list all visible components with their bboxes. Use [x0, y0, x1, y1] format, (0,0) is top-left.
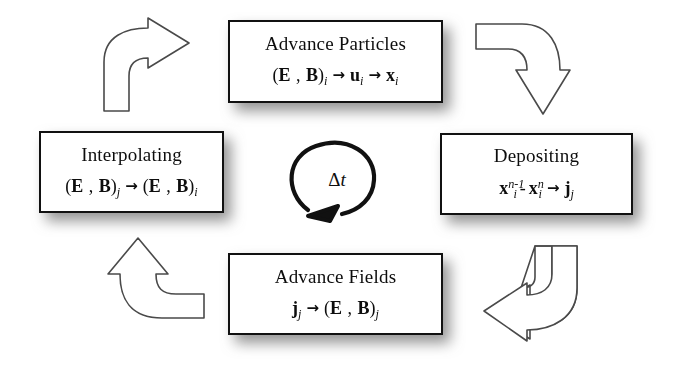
- node-formula-advance-particles: (E , B)i→ui→xi: [273, 66, 399, 88]
- connector-arrow-interpolating-to-advance-particles: [96, 16, 206, 116]
- formula-B-1: B: [99, 176, 111, 196]
- formula-arrow: →: [120, 177, 143, 195]
- formula-subscript-i-3: i: [395, 74, 398, 88]
- formula-comma-2: ,: [161, 176, 177, 196]
- connector-arrow-advance-fields-to-interpolating: [92, 236, 212, 346]
- formula-arrow: →: [301, 299, 324, 317]
- formula-arrow: →: [542, 179, 565, 197]
- node-interpolating[interactable]: Interpolating (E , B)j→(E , B)i: [39, 131, 224, 213]
- connector-arrow-depositing-to-advance-fields: [472, 240, 587, 350]
- node-title-interpolating: Interpolating: [81, 145, 182, 166]
- node-formula-interpolating: (E , B)j→(E , B)i: [65, 177, 197, 199]
- formula-x: x: [386, 65, 395, 85]
- formula-subscript-j-2: j: [376, 307, 379, 321]
- formula-arrow-1: →: [327, 66, 350, 84]
- formula-comma: ,: [342, 298, 358, 318]
- t-symbol: t: [340, 169, 345, 190]
- formula-E: E: [330, 298, 342, 318]
- formula-x-1: x: [499, 178, 508, 198]
- node-title-advance-fields: Advance Fields: [275, 267, 397, 288]
- timestep-cycle: Δt: [268, 126, 406, 234]
- node-title-advance-particles: Advance Particles: [265, 34, 406, 55]
- diagram-canvas: Advance Particles (E , B)i→ui→xi Deposit…: [0, 0, 680, 366]
- node-advance-fields[interactable]: Advance Fields jj→(E , B)j: [228, 253, 443, 335]
- formula-x-2: x: [529, 178, 538, 198]
- formula-E-1: E: [71, 176, 83, 196]
- formula-subscript-i: i: [194, 185, 197, 199]
- node-formula-advance-fields: jj→(E , B)j: [292, 299, 379, 321]
- formula-E: E: [279, 65, 291, 85]
- connector-arrow-advance-particles-to-depositing: [470, 16, 580, 121]
- formula-E-2: E: [149, 176, 161, 196]
- formula-minus: -: [517, 178, 529, 198]
- delta-symbol: Δ: [328, 169, 340, 190]
- formula-subscript-j: j: [570, 187, 573, 201]
- formula-comma-1: ,: [83, 176, 99, 196]
- node-title-depositing: Depositing: [494, 146, 579, 167]
- formula-u: u: [350, 65, 360, 85]
- formula-comma: ,: [291, 65, 307, 85]
- formula-B: B: [306, 65, 318, 85]
- node-advance-particles[interactable]: Advance Particles (E , B)i→ui→xi: [228, 20, 443, 103]
- formula-B: B: [358, 298, 370, 318]
- formula-arrow-2: →: [363, 66, 386, 84]
- formula-B-2: B: [176, 176, 188, 196]
- timestep-label: Δt: [328, 169, 346, 191]
- node-depositing[interactable]: Depositing xn-1i-xni→jj: [440, 133, 633, 215]
- node-formula-depositing: xn-1i-xni→jj: [499, 178, 574, 202]
